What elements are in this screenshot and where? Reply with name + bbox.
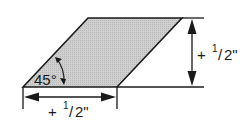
svg-text:2": 2": [75, 103, 89, 120]
svg-text:/: /: [69, 103, 74, 120]
vertical-dimension-line: [188, 19, 197, 86]
svg-text:+: +: [48, 103, 57, 120]
svg-text:+: +: [197, 46, 206, 63]
svg-text:2": 2": [224, 46, 238, 63]
arrow-up-icon: [188, 19, 197, 34]
horizontal-dimension-label: + 1 / 2": [48, 100, 89, 120]
arrow-right-icon: [101, 93, 116, 102]
chamfer-diagram: + 1 / 2" + 1 / 2" 45°: [0, 0, 252, 131]
horizontal-dimension-line: [24, 93, 116, 102]
svg-text:/: /: [218, 46, 223, 63]
arrow-left-icon: [24, 93, 39, 102]
angle-label: 45°: [34, 71, 57, 88]
arrow-down-icon: [188, 71, 197, 86]
vertical-dimension-label: + 1 / 2": [197, 43, 238, 63]
